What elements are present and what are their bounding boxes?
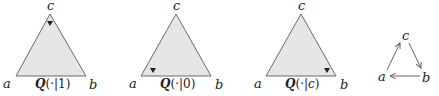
vertex-label-c: c xyxy=(298,0,306,13)
edge-c-to-b-arrow-icon xyxy=(409,43,421,68)
simplex-3: c a b Q(·|c) xyxy=(254,0,348,92)
vertex-label-a: a xyxy=(3,76,11,91)
edge-a-to-c-arrow-icon xyxy=(387,43,400,70)
simplex-1: c a b Q(·|1) xyxy=(3,0,97,92)
graph-node-a: a xyxy=(378,69,386,84)
simplex-triangle xyxy=(266,14,336,76)
vertex-label-c: c xyxy=(47,0,55,13)
simplex-2: c a b Q(·|0) xyxy=(129,0,223,92)
cycle-graph: c a b xyxy=(378,28,430,85)
simplex-caption: Q(·|c) xyxy=(285,77,319,91)
vertex-label-a: a xyxy=(129,76,137,91)
vertex-label-b: b xyxy=(89,77,97,92)
simplex-triangle xyxy=(141,14,211,76)
vertex-label-c: c xyxy=(173,0,181,13)
graph-node-b: b xyxy=(422,70,430,85)
vertex-label-a: a xyxy=(254,76,262,91)
simplex-caption: Q(·|1) xyxy=(35,77,70,91)
vertex-label-b: b xyxy=(340,77,348,92)
simplex-caption: Q(·|0) xyxy=(160,77,195,91)
diagram-canvas: c a b Q(·|1) c a b Q(·|0) c a b Q(·|c) c… xyxy=(0,0,439,96)
graph-node-c: c xyxy=(402,28,410,43)
vertex-label-b: b xyxy=(215,77,223,92)
